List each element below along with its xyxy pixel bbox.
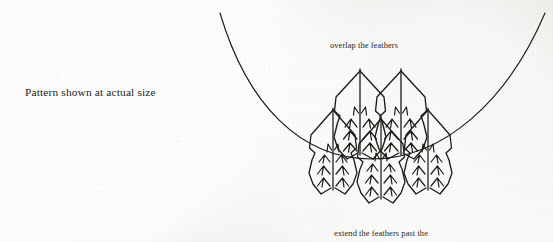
- feather-lower-center: [357, 117, 405, 203]
- feather-pattern-artwork: [0, 0, 553, 242]
- diagram-page: Pattern shown at actual size overlap the…: [0, 0, 553, 242]
- caption-overlap-the-feathers: overlap the feathers: [330, 41, 398, 50]
- caption-pattern-actual-size: Pattern shown at actual size: [25, 86, 156, 99]
- neckline-arc: [220, 13, 545, 159]
- caption-extend-the-feathers: extend the feathers past the: [334, 229, 428, 238]
